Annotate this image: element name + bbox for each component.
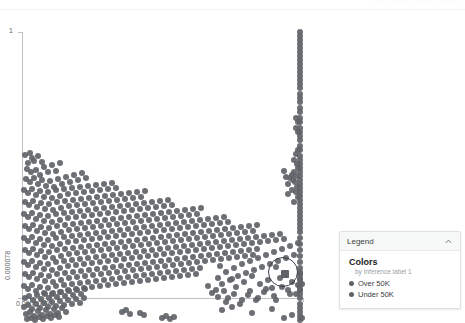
scatter-point[interactable]: [235, 273, 241, 279]
scatter-point[interactable]: [161, 203, 167, 209]
scatter-point[interactable]: [121, 208, 127, 214]
scatter-point[interactable]: [89, 260, 95, 266]
scatter-point[interactable]: [185, 248, 191, 254]
scatter-point[interactable]: [202, 258, 208, 264]
scatter-point[interactable]: [213, 287, 219, 293]
scatter-point[interactable]: [231, 265, 237, 271]
scatter-point[interactable]: [225, 295, 231, 301]
scatter-point[interactable]: [239, 261, 245, 267]
scatter-chart-panel[interactable]: 1 0.000078 0.00000093: [0, 10, 330, 313]
scatter-point[interactable]: [219, 307, 225, 313]
scatter-point[interactable]: [105, 234, 111, 240]
legend-entry[interactable]: Under 50K: [349, 290, 453, 299]
scatter-point[interactable]: [254, 222, 260, 228]
scatter-point[interactable]: [295, 147, 301, 153]
scatter-point[interactable]: [201, 246, 207, 252]
scatter-point[interactable]: [137, 254, 143, 260]
scatter-point[interactable]: [38, 272, 44, 278]
scatter-point[interactable]: [273, 297, 279, 303]
scatter-point[interactable]: [225, 243, 231, 249]
scatter-point[interactable]: [89, 188, 95, 194]
selected-scatter-point[interactable]: [281, 270, 289, 278]
scatter-point[interactable]: [29, 186, 35, 192]
scatter-point[interactable]: [97, 235, 103, 241]
scatter-point[interactable]: [53, 259, 59, 265]
scatter-point[interactable]: [38, 248, 44, 254]
scatter-point[interactable]: [263, 252, 269, 258]
scatter-point[interactable]: [177, 273, 183, 279]
scatter-point[interactable]: [259, 264, 265, 270]
scatter-point[interactable]: [29, 258, 35, 264]
scatter-point[interactable]: [113, 281, 119, 287]
scatter-point[interactable]: [73, 238, 79, 244]
scatter-point[interactable]: [42, 254, 48, 260]
scatter-point[interactable]: [129, 207, 135, 213]
scatter-point[interactable]: [35, 153, 41, 159]
scatter-point[interactable]: [185, 272, 191, 278]
scatter-point[interactable]: [37, 236, 43, 242]
legend-panel[interactable]: Legend Colors by Inference label 1 Over …: [339, 231, 461, 309]
scatter-point[interactable]: [223, 269, 229, 275]
scatter-point[interactable]: [255, 255, 261, 261]
scatter-point[interactable]: [161, 275, 167, 281]
scatter-point[interactable]: [82, 286, 88, 292]
scatter-point[interactable]: [299, 315, 305, 321]
scatter-point[interactable]: [105, 210, 111, 216]
scatter-point[interactable]: [38, 200, 44, 206]
scatter-point[interactable]: [193, 247, 199, 253]
scatter-point[interactable]: [209, 245, 215, 251]
scatter-point[interactable]: [73, 262, 79, 268]
scatter-point[interactable]: [53, 187, 59, 193]
scatter-point[interactable]: [137, 206, 143, 212]
scatter-point[interactable]: [30, 222, 36, 228]
scatter-point[interactable]: [153, 228, 159, 234]
scatter-point[interactable]: [127, 311, 133, 317]
scatter-point[interactable]: [113, 185, 119, 191]
scatter-point[interactable]: [229, 276, 235, 282]
scatter-point[interactable]: [57, 160, 63, 166]
scatter-point[interactable]: [37, 188, 43, 194]
scatter-point[interactable]: [281, 168, 287, 174]
scatter-point[interactable]: [229, 304, 235, 310]
scatter-point[interactable]: [121, 232, 127, 238]
scatter-point[interactable]: [69, 301, 75, 307]
scatter-point[interactable]: [209, 221, 215, 227]
scatter-point[interactable]: [291, 199, 297, 205]
scatter-point[interactable]: [297, 275, 303, 281]
scatter-point[interactable]: [171, 314, 177, 320]
scatter-point[interactable]: [105, 258, 111, 264]
scatter-point[interactable]: [226, 255, 232, 261]
scatter-point[interactable]: [297, 287, 303, 293]
scatter-point[interactable]: [113, 209, 119, 215]
scatter-point[interactable]: [54, 247, 60, 253]
scatter-point[interactable]: [261, 289, 267, 295]
scatter-point[interactable]: [97, 259, 103, 265]
scatter-point[interactable]: [41, 266, 47, 272]
scatter-point[interactable]: [271, 249, 277, 255]
scatter-point[interactable]: [37, 284, 43, 290]
scatter-point[interactable]: [56, 314, 62, 320]
scatter-point[interactable]: [47, 178, 53, 184]
scatter-point[interactable]: [233, 242, 239, 248]
scatter-point[interactable]: [137, 230, 143, 236]
scatter-point[interactable]: [145, 277, 151, 283]
scatter-point[interactable]: [73, 190, 79, 196]
scatter-point[interactable]: [45, 189, 51, 195]
scatter-point[interactable]: [273, 237, 279, 243]
scatter-point[interactable]: [31, 175, 37, 181]
scatter-point[interactable]: [169, 250, 175, 256]
scatter-point[interactable]: [46, 201, 52, 207]
scatter-point[interactable]: [185, 224, 191, 230]
scatter-point[interactable]: [205, 283, 211, 289]
scatter-point[interactable]: [63, 309, 69, 315]
scatter-point[interactable]: [145, 253, 151, 259]
scatter-point[interactable]: [219, 281, 225, 287]
scatter-point[interactable]: [83, 175, 89, 181]
scatter-point[interactable]: [249, 273, 255, 279]
legend-entry[interactable]: Over 50K: [349, 279, 453, 288]
scatter-point[interactable]: [217, 263, 223, 269]
scatter-point[interactable]: [237, 301, 243, 307]
scatter-point[interactable]: [53, 168, 59, 174]
scatter-point[interactable]: [89, 236, 95, 242]
scatter-point[interactable]: [169, 274, 175, 280]
